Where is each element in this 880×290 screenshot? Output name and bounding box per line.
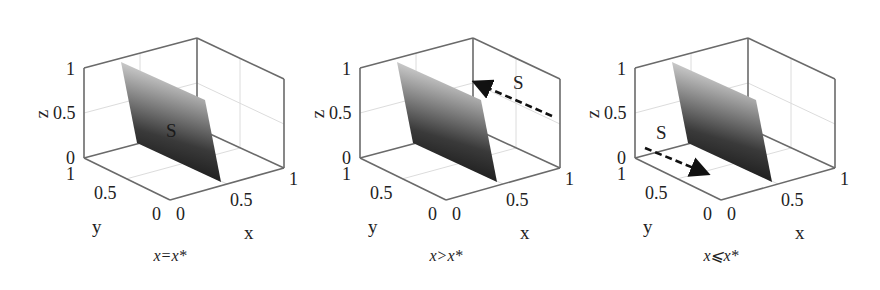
z-tick-1: 1 [342, 59, 351, 79]
surface-s [397, 62, 497, 182]
x-axis-label: x [520, 222, 530, 243]
y-tick-0.5: 0.5 [370, 183, 393, 203]
z-axis-label: z [31, 110, 52, 118]
x-tick-0.5: 0.5 [781, 190, 804, 210]
plot-3d: S 1 0.5 0 z 1 0.5 0 y 0 0.5 1 x x=x* [0, 0, 300, 290]
x-tick-0: 0 [727, 204, 736, 224]
z-tick-0.5: 0.5 [329, 103, 352, 123]
x-axis-label: x [795, 222, 805, 243]
y-axis-label: y [643, 216, 653, 237]
z-tick-0.5: 0.5 [53, 103, 76, 123]
panel-x-greater-xstar: S 1 0.5 0 z 1 0.5 0 y 0 0.5 1 x x>x* [276, 0, 576, 290]
plot-3d: S 1 0.5 0 z 1 0.5 0 y 0 0.5 1 x x⩽x* [551, 0, 851, 290]
y-axis-label: y [92, 216, 102, 237]
figure: S 1 0.5 0 z 1 0.5 0 y 0 0.5 1 x x=x* [0, 0, 880, 290]
x-tick-1: 1 [840, 169, 849, 189]
x-axis-label: x [244, 222, 254, 243]
surface-label: S [513, 72, 524, 93]
panel-x-leq-xstar: S 1 0.5 0 z 1 0.5 0 y 0 0.5 1 x x⩽x* [551, 0, 851, 290]
plot-3d: S 1 0.5 0 z 1 0.5 0 y 0 0.5 1 x x>x* [276, 0, 576, 290]
panel-caption: x⩽x* [702, 247, 738, 264]
x-tick-0: 0 [452, 204, 461, 224]
z-axis-label: z [582, 110, 603, 118]
z-tick-1: 1 [66, 59, 75, 79]
z-tick-0.5: 0.5 [604, 103, 627, 123]
x-tick-0.5: 0.5 [230, 190, 253, 210]
y-tick-0: 0 [428, 204, 437, 224]
panel-caption: x>x* [429, 247, 463, 264]
y-tick-0: 0 [152, 204, 161, 224]
x-tick-0: 0 [176, 204, 185, 224]
x-tick-0.5: 0.5 [506, 190, 529, 210]
y-axis-label: y [368, 216, 378, 237]
y-tick-0.5: 0.5 [645, 183, 668, 203]
panel-x-equals-xstar: S 1 0.5 0 z 1 0.5 0 y 0 0.5 1 x x=x* [0, 0, 300, 290]
surface-label: S [166, 120, 177, 141]
y-tick-1: 1 [617, 164, 626, 184]
y-tick-0.5: 0.5 [94, 183, 117, 203]
z-axis-label: z [307, 110, 328, 118]
y-tick-1: 1 [66, 164, 75, 184]
panel-caption: x=x* [153, 247, 187, 264]
y-tick-1: 1 [342, 164, 351, 184]
surface-label: S [656, 122, 667, 143]
y-tick-0: 0 [703, 204, 712, 224]
z-tick-1: 1 [617, 59, 626, 79]
